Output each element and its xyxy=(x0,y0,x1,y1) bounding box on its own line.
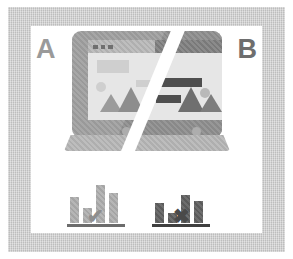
window-dot-icon xyxy=(101,45,106,50)
window-titlebar-right-half xyxy=(155,40,222,53)
chart-b-bar-4 xyxy=(194,201,203,223)
screen-content xyxy=(88,53,222,120)
chart-a-bar-4 xyxy=(109,193,118,223)
content-block-a-bar xyxy=(136,80,162,87)
mountain-icon-a-large xyxy=(118,87,144,112)
laptop-hinge-dot xyxy=(192,127,201,136)
window-dot-icon xyxy=(108,45,113,50)
variant-label-b: B xyxy=(238,36,258,63)
chart-variant-b: ✖ xyxy=(155,176,217,230)
laptop-screen xyxy=(88,40,222,120)
laptop-hinge-dot xyxy=(122,127,131,136)
content-block-b-header xyxy=(160,78,202,87)
laptop-illustration xyxy=(64,31,230,161)
chart-b-bar-1 xyxy=(155,203,164,223)
mountain-icon-b-small xyxy=(200,94,222,112)
checkmark-icon: ✔ xyxy=(87,206,104,226)
cross-icon: ✖ xyxy=(173,206,190,226)
laptop-lid xyxy=(72,31,222,138)
chart-variant-a: ✔ xyxy=(70,168,132,230)
sun-icon-a xyxy=(96,82,106,92)
chart-a-bar-1 xyxy=(70,197,79,223)
illustration-canvas: A B xyxy=(0,0,293,259)
window-dot-icon xyxy=(93,45,98,50)
content-block-a-header xyxy=(97,60,129,73)
laptop-base xyxy=(64,135,230,151)
variant-label-a: A xyxy=(36,36,56,63)
window-titlebar xyxy=(88,40,222,53)
